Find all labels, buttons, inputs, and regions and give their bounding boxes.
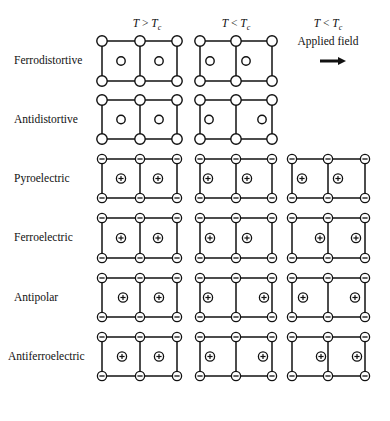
corner-atom-icon bbox=[267, 95, 277, 105]
corner-atom-icon bbox=[135, 134, 145, 144]
center-atom-icon bbox=[206, 57, 214, 65]
column-header-below-tc: T < Tc bbox=[191, 17, 281, 32]
corner-atom-icon bbox=[195, 36, 205, 46]
header-relation: < bbox=[231, 17, 238, 29]
center-atom-icon bbox=[117, 57, 125, 65]
header-sub-c: c bbox=[339, 23, 343, 32]
center-atom-icon bbox=[155, 57, 163, 65]
corner-atom-icon bbox=[135, 36, 145, 46]
header-sub-c: c bbox=[247, 23, 251, 32]
center-atom-icon bbox=[205, 115, 213, 123]
corner-atom-icon bbox=[195, 76, 205, 86]
column-header-above-tc: T > Tc bbox=[102, 17, 192, 32]
corner-atom-icon bbox=[231, 36, 241, 46]
header-symbol-t: T bbox=[133, 17, 139, 29]
column-header-applied-field-tc: T < Tc bbox=[283, 17, 373, 32]
row-label-ferroelectric: Ferroelectric bbox=[0, 231, 112, 243]
corner-atom-icon bbox=[267, 76, 277, 86]
center-atom-icon bbox=[258, 115, 266, 123]
corner-atom-icon bbox=[231, 134, 241, 144]
right-arrow-icon bbox=[338, 57, 346, 65]
row-label-pyroelectric: Pyroelectric bbox=[0, 172, 112, 184]
corner-atom-icon bbox=[172, 76, 182, 86]
center-atom-icon bbox=[155, 115, 163, 123]
row-label-antiferroelectric: Antiferroelectric bbox=[0, 350, 112, 362]
corner-atom-icon bbox=[195, 95, 205, 105]
row-label-ferrodistortive: Ferrodistortive bbox=[0, 54, 112, 66]
header-sub-c: c bbox=[158, 23, 162, 32]
corner-atom-icon bbox=[135, 95, 145, 105]
applied-field-label: Applied field bbox=[283, 35, 373, 47]
corner-atom-icon bbox=[97, 76, 107, 86]
row-label-antidistortive: Antidistortive bbox=[0, 113, 112, 125]
corner-atom-icon bbox=[172, 36, 182, 46]
header-symbol-t: T bbox=[314, 17, 320, 29]
header-relation: < bbox=[323, 17, 330, 29]
center-atom-icon bbox=[242, 57, 250, 65]
corner-atom-icon bbox=[135, 76, 145, 86]
corner-atom-icon bbox=[97, 36, 107, 46]
corner-atom-icon bbox=[172, 95, 182, 105]
corner-atom-icon bbox=[97, 134, 107, 144]
header-symbol-t: T bbox=[222, 17, 228, 29]
corner-atom-icon bbox=[172, 134, 182, 144]
corner-atom-icon bbox=[195, 134, 205, 144]
center-atom-icon bbox=[117, 115, 125, 123]
corner-atom-icon bbox=[267, 134, 277, 144]
header-relation: > bbox=[142, 17, 149, 29]
corner-atom-icon bbox=[267, 36, 277, 46]
row-label-antipolar: Antipolar bbox=[0, 291, 112, 303]
corner-atom-icon bbox=[231, 95, 241, 105]
corner-atom-icon bbox=[231, 76, 241, 86]
corner-atom-icon bbox=[97, 95, 107, 105]
